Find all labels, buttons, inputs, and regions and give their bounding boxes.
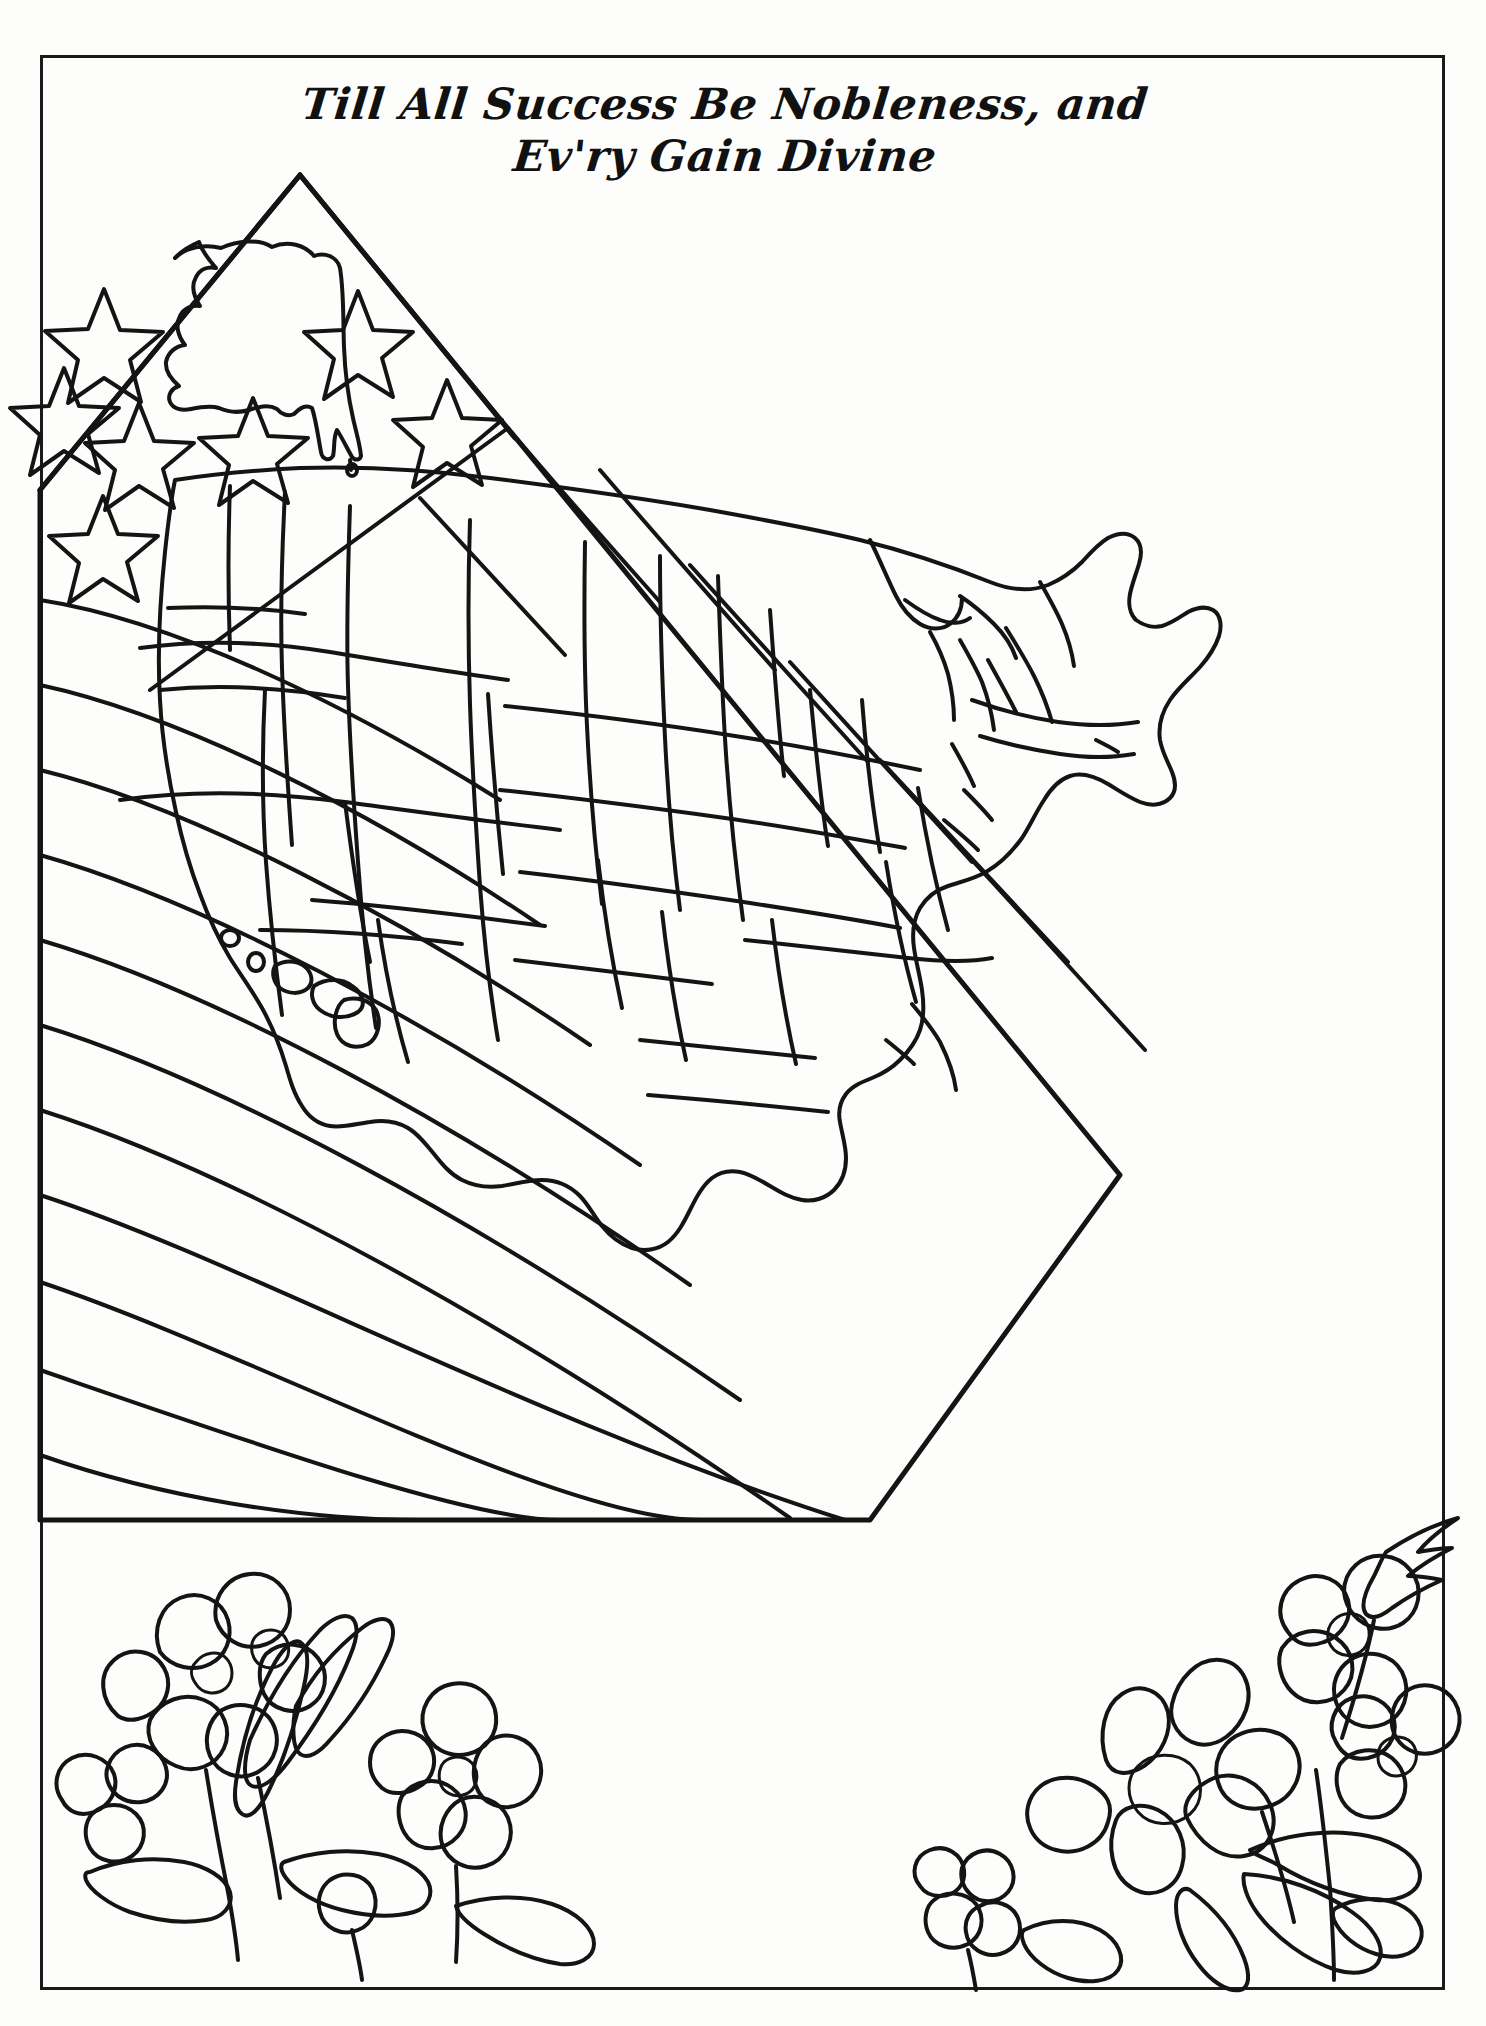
violet-petal xyxy=(106,1745,166,1802)
violet-petal xyxy=(1337,1750,1406,1817)
violet-center xyxy=(252,1630,289,1668)
star-icon xyxy=(304,291,413,399)
daisy-petal xyxy=(1171,1660,1248,1745)
leaf xyxy=(281,1851,430,1915)
violet-petal xyxy=(1280,1576,1349,1645)
leaf xyxy=(245,1616,356,1787)
violet-cluster-left xyxy=(57,1574,594,1980)
daisy-petal xyxy=(1185,1776,1273,1857)
star-icon xyxy=(85,403,194,510)
violet-petal xyxy=(370,1731,434,1793)
leaf xyxy=(1250,1832,1420,1900)
stem xyxy=(968,1950,976,1990)
clover-leaf xyxy=(961,1850,1013,1901)
daisy-center xyxy=(1129,1755,1201,1823)
coloring-page: Till All Success Be Nobleness, and Ev'ry… xyxy=(0,0,1486,2026)
artwork-lineart xyxy=(0,0,1486,2026)
clover-leaf xyxy=(926,1894,982,1948)
stem xyxy=(1342,1620,1374,1738)
flag-outline xyxy=(40,175,1120,1520)
violet-petal xyxy=(1332,1696,1395,1758)
violet-center xyxy=(1328,1613,1369,1655)
leaf xyxy=(1244,1874,1381,1973)
star-icon xyxy=(199,398,308,505)
violet-petal xyxy=(57,1755,116,1814)
clover-leaf xyxy=(966,1902,1020,1954)
stem xyxy=(1316,1770,1334,1980)
us-map-outline xyxy=(120,467,1221,1250)
violet-center xyxy=(439,1757,477,1796)
violet-petal xyxy=(86,1805,144,1862)
flag-stripes xyxy=(40,428,1145,1520)
star-icon xyxy=(45,289,163,403)
star-icon xyxy=(10,368,119,475)
violet-petal xyxy=(260,1645,325,1711)
star-icon xyxy=(393,380,502,487)
flag-canton xyxy=(40,175,515,690)
leaf xyxy=(235,1641,307,1815)
leaf xyxy=(1333,1899,1422,1957)
hawaii-outline xyxy=(221,930,379,1047)
stem xyxy=(206,1770,238,1960)
violet-petal xyxy=(1279,1631,1352,1702)
daisy-petal xyxy=(1216,1730,1299,1809)
leaf xyxy=(1364,1518,1458,1617)
daisy-petal xyxy=(1027,1778,1110,1852)
violet-petal xyxy=(422,1683,496,1755)
star-icon xyxy=(49,496,158,603)
aleutian-dot xyxy=(347,464,357,476)
flower-cluster-right xyxy=(915,1518,1460,1990)
leaf xyxy=(293,1619,393,1756)
canton-stars xyxy=(10,289,502,603)
stem xyxy=(456,1866,458,1962)
leaf xyxy=(1022,1921,1121,1981)
violet-petal xyxy=(1344,1556,1419,1629)
violet-petal xyxy=(215,1574,290,1647)
violet-petal xyxy=(399,1781,466,1848)
leaf xyxy=(85,1859,231,1921)
violet-petal xyxy=(441,1797,511,1868)
daisy-petal xyxy=(1103,1688,1169,1772)
alaska-outline xyxy=(166,241,361,476)
bud xyxy=(319,1874,376,1932)
stem xyxy=(258,1778,280,1898)
stem xyxy=(1262,1812,1294,1922)
leaf xyxy=(1176,1889,1248,1990)
violet-center xyxy=(1378,1737,1416,1776)
daisy-petal xyxy=(1111,1806,1183,1893)
stem xyxy=(352,1930,362,1980)
violet-petal xyxy=(103,1652,168,1720)
violet-petal xyxy=(1392,1685,1460,1753)
clover-leaf xyxy=(915,1848,965,1896)
violet-petal xyxy=(207,1705,277,1776)
violet-petal xyxy=(1334,1654,1406,1727)
daisy-flower xyxy=(1027,1660,1299,1893)
leaf xyxy=(456,1897,594,1964)
violet-petal xyxy=(148,1697,227,1769)
violet-petal xyxy=(157,1595,230,1668)
violet-petal xyxy=(474,1736,541,1807)
violet-center xyxy=(192,1653,233,1693)
